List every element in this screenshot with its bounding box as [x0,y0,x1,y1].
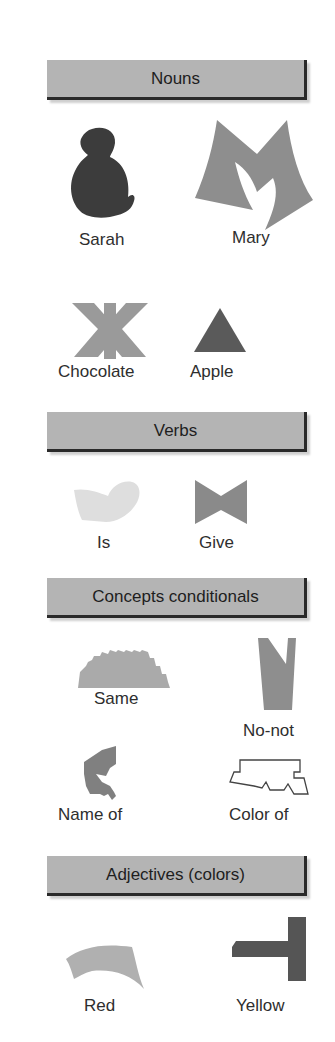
section-title: Verbs [154,421,197,441]
chocolate-symbol-icon [70,303,150,359]
color-of-symbol-icon [230,758,306,796]
apple-label: Apple [190,362,233,382]
section-title: Concepts conditionals [92,587,258,607]
is-symbol-icon [74,480,140,524]
sarah-symbol-icon [70,127,135,227]
section-header-verbs: Verbs [47,412,307,452]
section-title: Adjectives (colors) [106,865,245,885]
same-symbol-icon [78,650,170,688]
yellow-symbol-icon [232,917,308,983]
name-of-symbol-icon [84,746,120,802]
give-label: Give [199,533,234,553]
section-header-nouns: Nouns [47,60,307,100]
no-not-label: No-not [243,721,294,741]
apple-symbol-icon [194,308,246,354]
section-title: Nouns [151,69,200,89]
red-label: Red [84,996,115,1016]
yellow-label: Yellow [236,996,285,1016]
name-of-label: Name of [58,805,122,825]
is-label: Is [97,533,110,553]
section-header-adjectives: Adjectives (colors) [47,856,307,896]
chocolate-label: Chocolate [58,362,135,382]
give-symbol-icon [195,480,247,524]
sarah-label: Sarah [79,230,124,250]
color-of-label: Color of [229,805,289,825]
mary-label: Mary [232,228,270,248]
section-header-concepts: Concepts conditionals [47,578,307,618]
red-symbol-icon [66,945,144,989]
no-not-symbol-icon [258,638,298,710]
same-label: Same [94,689,138,709]
mary-symbol-icon [195,120,315,232]
